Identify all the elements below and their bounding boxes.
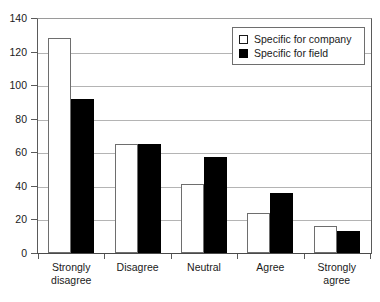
y-axis-tick-label: 40	[0, 181, 27, 192]
y-axis-tick-mark	[31, 186, 37, 187]
y-axis-tick-label: 80	[0, 113, 27, 124]
x-axis-tick-mark	[370, 254, 371, 259]
y-axis-tick-mark	[31, 219, 37, 220]
y-axis-tick-label: 120	[0, 46, 27, 57]
legend-item-company: Specific for company	[239, 32, 359, 46]
bar	[48, 38, 71, 253]
bar	[181, 184, 204, 253]
y-axis-tick-label: 20	[0, 214, 27, 225]
x-axis-category-label: Neutral	[171, 261, 237, 274]
x-axis-tick-mark	[304, 254, 305, 259]
x-axis-tick-mark	[237, 254, 238, 259]
legend-swatch-black-square-icon	[239, 49, 248, 58]
y-axis-tick-mark	[31, 52, 37, 53]
y-axis-tick-label: 100	[0, 80, 27, 91]
x-axis-tick-mark	[171, 254, 172, 259]
legend-item-field: Specific for field	[239, 46, 359, 60]
x-axis-category-label: Strongly agree	[304, 261, 370, 287]
x-axis-category-label: Disagree	[104, 261, 170, 274]
y-axis-tick-mark	[31, 152, 37, 153]
x-axis-category-label: Agree	[237, 261, 303, 274]
y-axis-tick-mark	[31, 119, 37, 120]
bar	[337, 231, 360, 253]
x-axis-category-label: Strongly disagree	[38, 261, 104, 287]
bar	[314, 226, 337, 253]
bar	[138, 144, 161, 253]
bar	[270, 193, 293, 253]
legend-label-company: Specific for company	[254, 34, 351, 45]
x-axis-tick-mark	[38, 254, 39, 259]
bar	[247, 213, 270, 253]
bar	[204, 157, 227, 253]
y-axis-tick-mark	[31, 85, 37, 86]
x-axis-baseline	[37, 253, 371, 254]
y-axis: 020406080100120140	[0, 0, 27, 302]
x-axis-tick-mark	[104, 254, 105, 259]
y-axis-tick-mark	[31, 253, 37, 254]
bar	[115, 144, 138, 253]
grouped-bar-chart: 020406080100120140 Strongly disagreeDisa…	[0, 0, 380, 302]
legend-swatch-white-square-icon	[239, 35, 248, 44]
chart-legend: Specific for company Specific for field	[232, 27, 365, 65]
y-axis-tick-label: 60	[0, 147, 27, 158]
y-axis-tick-label: 0	[0, 248, 27, 259]
y-axis-tick-label: 140	[0, 13, 27, 24]
y-axis-tick-mark	[31, 18, 37, 19]
legend-label-field: Specific for field	[254, 48, 328, 59]
bar	[71, 99, 94, 253]
